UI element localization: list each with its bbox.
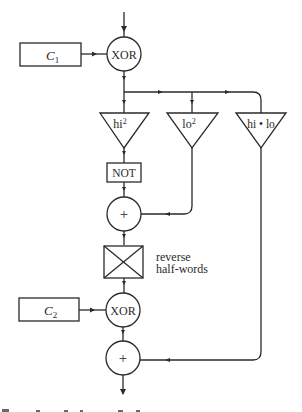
hi-lo-product-multiplier: hi • lo (236, 113, 286, 148)
constant-c1-box: C1 (20, 43, 81, 66)
svg-text:+: + (120, 206, 128, 222)
svg-text:+: + (119, 350, 127, 366)
add-node-1: + (107, 197, 141, 231)
not-gate-box: NOT (107, 163, 141, 182)
arrowhead-icon (121, 26, 127, 32)
svg-text:NOT: NOT (112, 167, 136, 179)
reverse-half-words-box (104, 246, 143, 278)
xor-node-1: XOR (107, 37, 141, 71)
lo-squared-multiplier: lo2 (167, 113, 218, 148)
hi-squared-multiplier: hi2 (100, 113, 149, 148)
svg-text:XOR: XOR (111, 48, 136, 62)
xor-node-2: XOR (106, 293, 140, 327)
reverse-label-line2: half-words (156, 262, 208, 276)
arrowhead-icon (92, 52, 97, 57)
constant-c2-box: C2 (19, 298, 79, 321)
lo2-to-add-line (141, 148, 192, 214)
hash-flow-diagram: C1 XOR hi2 lo2 hi • lo NOT (0, 0, 302, 412)
svg-text:XOR: XOR (110, 304, 135, 318)
svg-text:hi • lo: hi • lo (247, 118, 275, 130)
add-node-2: + (106, 341, 140, 375)
